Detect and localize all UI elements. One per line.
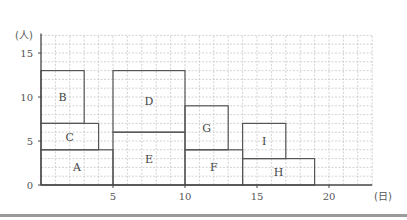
x-tick-label: 15 xyxy=(251,191,264,202)
rect-label-C: C xyxy=(66,131,74,144)
x-tick-label: 20 xyxy=(323,191,336,202)
x-axis-label: (日) xyxy=(374,191,392,202)
rect-label-B: B xyxy=(59,91,67,104)
y-tick-label: 0 xyxy=(27,180,33,191)
x-tick-label: 5 xyxy=(110,191,116,202)
rect-label-I: I xyxy=(262,135,266,148)
divider xyxy=(0,214,407,217)
y-axis-label: (人) xyxy=(15,30,33,41)
rect-label-D: D xyxy=(145,95,154,108)
rect-label-F: F xyxy=(210,161,218,174)
chart: ACBEDFGHI0510155101520(人)(日) xyxy=(0,0,407,220)
y-tick-label: 10 xyxy=(20,92,33,103)
rect-label-G: G xyxy=(202,122,211,135)
rect-label-H: H xyxy=(274,166,284,179)
rect-label-A: A xyxy=(72,161,82,174)
y-tick-label: 15 xyxy=(20,48,33,59)
x-tick-label: 10 xyxy=(179,191,192,202)
rect-label-E: E xyxy=(145,153,153,166)
y-tick-label: 5 xyxy=(27,136,33,147)
